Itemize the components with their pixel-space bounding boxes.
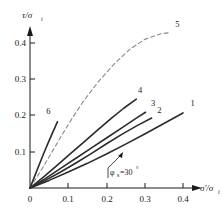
x-tick-label-3: 0.3: [139, 194, 151, 204]
curve-label-3: 3: [151, 98, 155, 108]
x-tick-label-1: 0.1: [62, 194, 73, 204]
curve-label-1: 1: [190, 98, 194, 108]
curve-label-5: 5: [175, 19, 179, 29]
y-axis-title-main: τ/σ: [22, 10, 33, 20]
curve-label-4: 4: [138, 85, 143, 95]
phi-symbol: φ: [110, 168, 115, 177]
y-tick-label-0: 0.4: [15, 38, 27, 48]
x-axis-title-main: σ'/σ: [200, 183, 214, 193]
chart-figure: 0.4 0.3 0.2 0.1 0 0.1 0.2 0.3 0.4 τ/σ i …: [0, 0, 222, 215]
y-tick-label-1: 0.3: [15, 74, 27, 84]
curve-label-2: 2: [157, 105, 161, 115]
chart-canvas: 0.4 0.3 0.2 0.1 0 0.1 0.2 0.3 0.4 τ/σ i …: [0, 0, 222, 215]
x-tick-label-0: 0: [28, 194, 33, 204]
y-tick-label-2: 0.2: [15, 110, 26, 120]
chart-background: [0, 0, 222, 215]
x-tick-label-2: 0.2: [101, 194, 112, 204]
y-tick-label-3: 0.1: [15, 147, 26, 157]
curve-label-6: 6: [46, 106, 50, 116]
x-tick-label-4: 0.4: [177, 194, 189, 204]
phi-value: =30: [120, 168, 133, 177]
